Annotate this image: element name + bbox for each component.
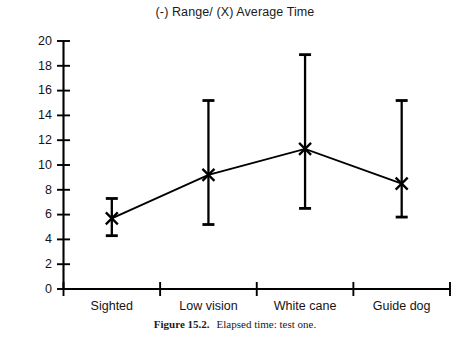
y-tick-label: 10 (38, 158, 52, 172)
y-tick-label: 14 (38, 108, 52, 122)
figure-caption-label: Figure 15.2. (154, 318, 210, 330)
y-tick-label: 4 (45, 232, 52, 246)
y-tick-label: 6 (45, 207, 52, 221)
x-axis (62, 282, 450, 296)
y-tick-label: 12 (38, 133, 52, 147)
x-tick-label-low-vision: Low vision (179, 299, 237, 313)
plot-area: 02468101214161820 SightedLow visionWhite… (0, 0, 470, 318)
figure-container: (-) Range/ (X) Average Time Minutes 0246… (0, 0, 470, 343)
y-tick-label: 8 (45, 183, 52, 197)
x-tick-label-white-cane: White cane (274, 299, 337, 313)
average-time-line (112, 149, 402, 218)
y-tick-label: 20 (38, 34, 52, 48)
average-time-markers (106, 143, 408, 224)
range-bars-group (106, 55, 408, 236)
x-tick-label-sighted: Sighted (91, 299, 133, 313)
y-tick-group: 02468101214161820 (38, 34, 70, 296)
y-tick-label: 0 (45, 282, 52, 296)
figure-caption-text: Elapsed time: test one. (217, 318, 317, 330)
x-tick-label-guide-dog: Guide dog (373, 299, 431, 313)
y-tick-label: 16 (38, 83, 52, 97)
x-tick-labels: SightedLow visionWhite caneGuide dog (91, 299, 431, 313)
y-tick-label: 18 (38, 59, 52, 73)
figure-caption: Figure 15.2.Elapsed time: test one. (0, 318, 470, 330)
y-axis: 02468101214161820 (38, 34, 70, 296)
y-tick-label: 2 (45, 257, 52, 271)
